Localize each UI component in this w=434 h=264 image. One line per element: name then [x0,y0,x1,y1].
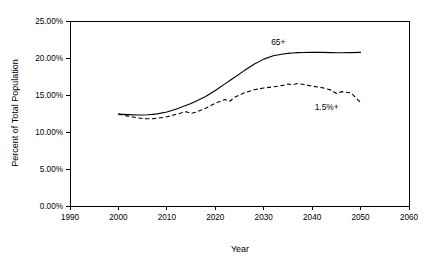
x-axis-title: Year [231,244,249,254]
y-tick-label: 5.00% [40,165,63,174]
x-tick-label: 2020 [206,213,225,222]
x-axis-ticks: 19902000201020202030204020502060 [61,206,419,222]
x-tick-label: 2000 [109,213,128,222]
x-tick-label: 2040 [303,213,322,222]
y-axis-title: Percent of Total Population [10,59,20,166]
y-tick-label: 25.00% [35,17,63,26]
series-label-1-5-: 1.5%+ [315,102,339,112]
y-tick-label: 20.00% [35,54,63,63]
x-tick-label: 2060 [400,213,419,222]
chart-figure: 0.00%5.00%10.00%15.00%20.00%25.00% 19902… [0,0,434,264]
y-axis-ticks: 0.00%5.00%10.00%15.00%20.00%25.00% [35,17,70,211]
y-tick-label: 10.00% [35,128,63,137]
y-tick-label: 15.00% [35,91,63,100]
plot-border [70,21,409,206]
series-line-1-5- [118,84,360,119]
y-tick-label: 0.00% [40,202,63,211]
x-tick-label: 2010 [158,213,177,222]
x-tick-label: 2030 [255,213,274,222]
series-annotations: 65+1.5%+ [271,37,339,112]
plot-frame [70,21,409,206]
x-tick-label: 1990 [61,213,80,222]
series-label-65-: 65+ [271,37,285,47]
x-tick-label: 2050 [351,213,370,222]
line-chart-canvas: 0.00%5.00%10.00%15.00%20.00%25.00% 19902… [0,0,434,264]
